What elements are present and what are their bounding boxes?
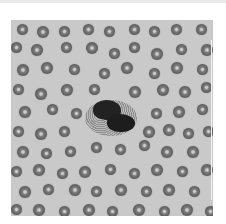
- red-blood-cell: [104, 26, 115, 37]
- red-blood-cell: [91, 186, 102, 197]
- red-blood-cell: [187, 146, 199, 158]
- red-blood-cell: [151, 164, 163, 176]
- red-blood-cell: [61, 84, 73, 96]
- red-blood-cell: [33, 164, 45, 176]
- red-blood-cell: [47, 104, 58, 115]
- red-blood-cell: [86, 42, 98, 54]
- red-blood-cell: [173, 106, 185, 118]
- scan-edge-line: [211, 40, 212, 200]
- red-blood-cell: [129, 24, 140, 35]
- red-blood-cell: [19, 106, 31, 118]
- red-blood-cell: [163, 124, 175, 136]
- red-blood-cell: [59, 206, 70, 216]
- red-blood-cell: [139, 140, 150, 151]
- red-blood-cell: [129, 168, 140, 179]
- red-blood-cell: [59, 126, 70, 137]
- red-blood-cell: [13, 126, 24, 137]
- red-blood-cell: [143, 126, 155, 138]
- red-blood-cell: [129, 86, 141, 98]
- red-blood-cell: [115, 184, 127, 196]
- red-blood-cell: [69, 184, 81, 196]
- red-blood-cell: [35, 128, 47, 140]
- red-blood-cell: [121, 62, 133, 74]
- red-blood-cell: [171, 62, 183, 74]
- red-blood-cell: [43, 184, 54, 195]
- red-blood-cell: [89, 84, 100, 95]
- red-blood-cell: [59, 26, 70, 37]
- red-blood-cell: [65, 146, 76, 157]
- granulocyte-cell: [85, 98, 137, 138]
- red-blood-cell: [17, 24, 28, 35]
- red-blood-cell: [31, 44, 43, 56]
- red-blood-cell: [161, 146, 173, 158]
- red-blood-cell: [133, 204, 145, 216]
- top-border: [0, 0, 226, 3]
- red-blood-cell: [177, 166, 188, 177]
- red-blood-cell: [163, 184, 175, 196]
- red-blood-cell: [11, 42, 22, 53]
- red-blood-cell: [33, 204, 45, 216]
- red-blood-cell: [37, 26, 49, 38]
- red-blood-cell: [183, 128, 194, 139]
- red-blood-cell: [196, 24, 207, 35]
- red-blood-cell: [189, 186, 200, 197]
- red-blood-cell: [91, 142, 102, 153]
- red-blood-cell: [11, 204, 22, 215]
- red-blood-cell: [157, 84, 169, 96]
- red-blood-cell: [83, 24, 94, 35]
- red-blood-cell: [171, 24, 182, 35]
- red-blood-cell: [159, 206, 170, 216]
- red-blood-cell: [11, 166, 22, 177]
- red-blood-cell: [69, 64, 80, 75]
- red-blood-cell: [181, 204, 193, 216]
- red-blood-cell: [141, 186, 152, 197]
- red-blood-cell: [176, 44, 187, 55]
- red-blood-cell: [197, 104, 208, 115]
- red-blood-cell: [41, 148, 52, 159]
- red-blood-cell: [109, 48, 120, 59]
- red-blood-cell: [107, 206, 118, 216]
- red-blood-cell: [19, 186, 31, 198]
- micrograph: [11, 20, 213, 216]
- red-blood-cell: [149, 68, 160, 79]
- red-blood-cell: [205, 206, 213, 216]
- red-blood-cell: [179, 86, 191, 98]
- red-blood-cell: [197, 64, 208, 75]
- red-blood-cell: [129, 42, 140, 53]
- red-blood-cell: [35, 88, 47, 100]
- red-blood-cell: [17, 146, 29, 158]
- red-blood-cell: [99, 68, 110, 79]
- red-blood-cell: [115, 144, 126, 155]
- red-blood-cell: [151, 108, 162, 119]
- red-blood-cell: [17, 64, 29, 76]
- red-blood-cell: [41, 62, 53, 74]
- red-blood-cell: [71, 108, 82, 119]
- red-blood-cell: [83, 204, 95, 216]
- red-blood-cell: [61, 42, 72, 53]
- nucleus-lobe: [107, 114, 135, 132]
- red-blood-cell: [105, 164, 116, 175]
- red-blood-cell: [79, 166, 91, 178]
- red-blood-cell: [149, 26, 160, 37]
- red-blood-cell: [151, 48, 163, 60]
- red-blood-cell: [57, 168, 68, 179]
- red-blood-cell: [13, 84, 24, 95]
